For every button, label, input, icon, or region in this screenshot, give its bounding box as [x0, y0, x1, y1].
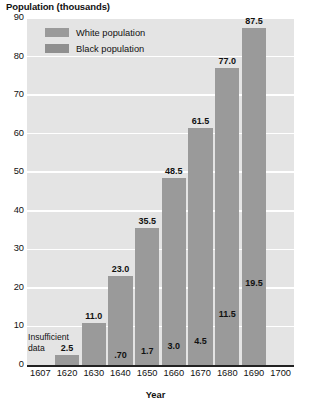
x-tick-label: 1700	[267, 368, 294, 378]
bar-value-label-black: 4.5	[188, 336, 212, 346]
x-tick-label: 1660	[161, 368, 188, 378]
bar-white-population	[242, 28, 266, 365]
y-tick-label: 70	[0, 89, 24, 99]
x-tick-label: 1690	[241, 368, 268, 378]
y-tick-label: 20	[0, 282, 24, 292]
legend-swatch-black-icon	[45, 44, 69, 53]
population-bar-chart: Population (thousands) 01020304050607080…	[0, 0, 311, 411]
chart-title: Population (thousands)	[6, 1, 110, 12]
bar-white-population	[135, 228, 159, 365]
bar-white-population	[188, 128, 212, 365]
bar-value-label-white: 23.0	[108, 264, 132, 274]
bar-value-label-black: .70	[108, 350, 132, 360]
bar-value-label-black: 1.7	[135, 346, 159, 356]
bar-value-label-white: 77.0	[215, 56, 239, 66]
y-tick-label: 0	[0, 359, 24, 369]
bar-value-label-black: 3.0	[162, 341, 186, 351]
legend-label-white: White population	[76, 28, 145, 38]
bar-column	[28, 18, 52, 365]
bar-column	[55, 18, 79, 365]
x-axis-line	[27, 365, 294, 367]
bar-value-label-white: 11.0	[82, 311, 106, 321]
x-tick-label: 1640	[107, 368, 134, 378]
y-tick-label: 40	[0, 205, 24, 215]
bar-column	[269, 18, 293, 365]
x-axis-title: Year	[0, 390, 311, 400]
y-axis-ticks: 0102030405060708090	[0, 18, 24, 365]
bar-white-population	[55, 355, 79, 365]
y-tick-label: 10	[0, 320, 24, 330]
bar-value-label-white: 87.5	[242, 18, 266, 26]
legend-label-black: Black population	[76, 44, 144, 54]
y-tick-label: 60	[0, 128, 24, 138]
bar-white-population	[162, 178, 186, 365]
bar-column	[242, 18, 266, 365]
bar-column	[162, 18, 186, 365]
y-tick-label: 80	[0, 51, 24, 61]
y-tick-label: 50	[0, 166, 24, 176]
bar-column	[108, 18, 132, 365]
bar-value-label-white: 35.5	[135, 216, 159, 226]
bar-value-label-white: 48.5	[162, 166, 186, 176]
bar-column	[188, 18, 212, 365]
x-tick-label: 1607	[27, 368, 54, 378]
legend-item-white: White population	[45, 26, 145, 39]
x-tick-label: 1650	[134, 368, 161, 378]
legend-item-black: Black population	[45, 42, 145, 55]
bar-value-label-black: 19.5	[242, 278, 266, 288]
plot-area: 2.511.023.0.7035.51.748.53.061.54.577.01…	[27, 18, 294, 365]
insufficient-data-annotation: Insufficientdata	[28, 332, 69, 354]
insufficient-data-line-1: Insufficient	[28, 332, 69, 343]
y-tick-label: 90	[0, 12, 24, 22]
chart-legend: White population Black population	[45, 26, 145, 58]
insufficient-data-line-2: data	[28, 343, 69, 354]
bar-value-label-black: 11.5	[215, 309, 239, 319]
x-tick-label: 1680	[214, 368, 241, 378]
bar-value-label-white: 61.5	[188, 116, 212, 126]
legend-swatch-white-icon	[45, 28, 69, 37]
bar-white-population	[215, 68, 239, 365]
x-tick-label: 1670	[187, 368, 214, 378]
y-tick-label: 30	[0, 243, 24, 253]
bar-column	[135, 18, 159, 365]
bars-layer: 2.511.023.0.7035.51.748.53.061.54.577.01…	[27, 18, 294, 365]
x-tick-label: 1630	[80, 368, 107, 378]
x-tick-label: 1620	[54, 368, 81, 378]
bar-white-population	[82, 323, 106, 365]
